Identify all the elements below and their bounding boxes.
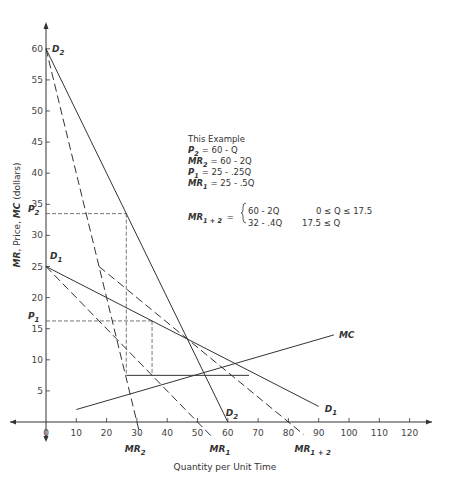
annotation-equation: MR1= 25 - .5Q [188,178,255,191]
x-tick-label: 100 [340,428,357,438]
series-d2 [46,49,228,422]
label-mc-main: MC [339,330,355,340]
eq-lhs-sub: 1 [203,183,208,191]
label-d1-left-sub: 1 [57,256,62,264]
axes: 0102030405060708090100110120510152025303… [10,22,432,442]
eq-rhs: = 60 - 2Q [211,156,253,166]
piecewise-brace [241,203,246,223]
x-tick-label: 90 [313,428,325,438]
y-tick-label: 30 [32,230,44,240]
p1-label: P1 [28,311,40,324]
piecewise-cond: 17.5 ≤ Q [302,218,340,228]
x-axis-arrow-right [426,420,432,425]
x-tick-label: 40 [161,428,173,438]
x-tick-label: 50 [192,428,204,438]
guide-lines: P2P1 [28,204,249,376]
label-mr2-sub: 2 [141,449,146,457]
series-lines [46,49,334,438]
equation-annotation: This ExampleP2= 60 - QMR2= 60 - 2QP1= 25… [187,134,372,228]
y-tick-label: 10 [32,355,44,365]
label-mr2-main: MR [125,444,141,454]
x-tick-label: 70 [252,428,264,438]
eq-rhs: = 25 - .25Q [202,167,252,177]
label-d1-right-sub: 1 [332,409,337,417]
p1-label-sub: 1 [35,316,40,324]
y-tick-label: 5 [37,386,43,396]
label-mr2: MR2 [125,444,146,457]
eq-lhs: MR [188,178,203,188]
annotation-heading: This Example [187,134,245,144]
x-tick-label: 60 [222,428,234,438]
y-axis-arrow-up [44,22,49,29]
label-mr1-2: MR1 + 2 [294,444,331,457]
y-axis-title-part: , Price, [12,218,22,251]
piecewise-expr: 32 - .4Q [248,218,282,228]
curve-labels: D2D2D1D1MR2MR1MR1 + 2MC [50,44,355,457]
x-tick-label: 20 [101,428,113,438]
y-tick-label: 45 [32,137,43,147]
label-d2-top-sub: 2 [59,49,64,57]
y-axis-title-part: MR [12,251,22,267]
chart: 0102030405060708090100110120510152025303… [0,0,450,477]
y-tick-label: 25 [32,262,43,272]
label-d2-bottom-sub: 2 [233,413,238,421]
x-tick-label: 0 [43,428,49,438]
series-mr2 [46,49,140,435]
piecewise-expr: 60 - 2Q [248,206,280,216]
x-axis-title: Quantity per Unit Time [174,462,277,472]
piecewise-lhs-sub: 1 + 2 [203,217,222,225]
x-tick-label: 10 [71,428,83,438]
y-tick-label: 40 [32,168,44,178]
label-mr1-main: MR [210,444,226,454]
series-mc [76,335,334,410]
label-d2-top: D2 [52,44,64,57]
y-axis-title-part: MC [12,202,22,218]
eq-lhs: MR [188,156,203,166]
x-tick-label: 120 [401,428,418,438]
y-tick-label: 20 [32,293,44,303]
x-axis-arrow-left [10,420,16,425]
series-mr1 [46,267,213,438]
y-axis-title: MR, Price, MC (dollars) [12,163,22,268]
p2-label-sub: 2 [35,209,40,217]
x-tick-label: 110 [371,428,388,438]
label-mr1: MR1 [210,444,231,457]
label-mr1-2-sub: 1 + 2 [310,449,331,457]
piecewise-eq: = [224,212,234,222]
label-d1-right: D1 [325,404,337,417]
eq-rhs: = 25 - .5Q [211,178,255,188]
y-tick-label: 15 [32,324,43,334]
y-tick-label: 60 [32,44,44,54]
label-d1-left: D1 [50,251,62,264]
label-mr1-sub: 1 [226,449,231,457]
y-axis-title-part: (dollars) [12,163,22,203]
piecewise-lhs-main: MR [188,212,203,222]
y-tick-label: 50 [32,106,44,116]
piecewise-lhs: MR1 + 2 = [188,212,234,225]
eq-rhs: = 60 - Q [202,145,238,155]
x-tick-label: 80 [283,428,295,438]
series-d1 [46,267,319,407]
x-tick-label: 30 [131,428,143,438]
y-tick-label: 55 [32,75,43,85]
series-mr1-2 [99,267,304,435]
piecewise-cond: 0 ≤ Q ≤ 17.5 [316,206,372,216]
label-mr1-2-main: MR [294,444,310,454]
label-mc: MC [339,330,355,340]
